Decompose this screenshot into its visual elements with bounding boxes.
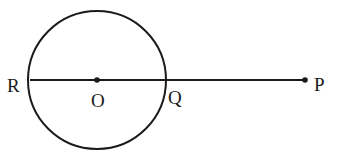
point-o-dot xyxy=(94,77,100,83)
point-p-dot xyxy=(302,77,308,83)
label-q: Q xyxy=(168,87,182,108)
label-o: O xyxy=(91,90,105,111)
label-r: R xyxy=(7,75,20,96)
label-p: P xyxy=(314,74,325,95)
geometry-diagram: R O Q P xyxy=(0,0,338,154)
